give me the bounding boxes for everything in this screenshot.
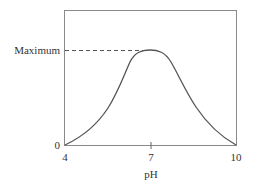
x-tick-label-10: 10	[231, 151, 243, 163]
x-tick-label-7: 7	[148, 151, 154, 163]
ph-activity-chart: Maximum 0 4 7 10 pH	[0, 0, 253, 187]
y-tick-0: 0	[55, 139, 61, 151]
x-tick-label-4: 4	[62, 151, 68, 163]
x-axis-label: pH	[144, 168, 158, 180]
y-tick-maximum: Maximum	[14, 44, 60, 56]
activity-curve	[65, 50, 236, 145]
